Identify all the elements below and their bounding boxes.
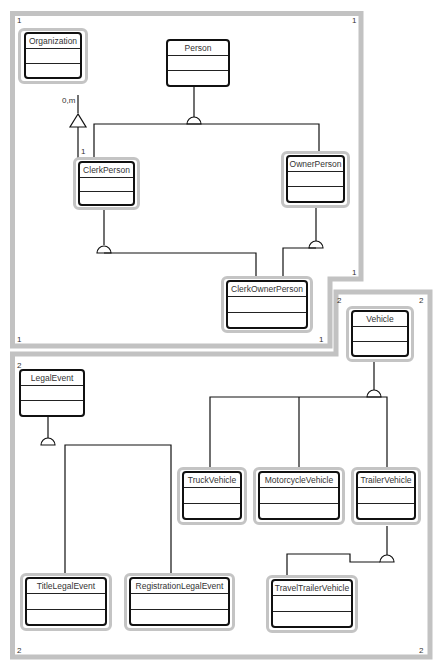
class-attributes (228, 297, 306, 313)
class-name: TitleLegalEvent (27, 579, 105, 594)
class-name: MotorcycleVehicle (260, 473, 338, 488)
legal-event-class[interactable]: LegalEvent (19, 369, 85, 417)
class-operations (228, 313, 306, 328)
person-class[interactable]: Person (166, 39, 230, 87)
owner-person-class[interactable]: OwnerPerson (286, 155, 345, 203)
class-attributes (288, 172, 343, 187)
class-attributes (358, 488, 414, 504)
class-operations (168, 71, 228, 85)
class-name: LegalEvent (21, 371, 83, 386)
class-operations (358, 504, 414, 519)
class-attributes (21, 386, 83, 401)
class-name: TruckVehicle (184, 473, 240, 488)
region-1-label-notch: 1 (352, 269, 356, 277)
class-operations (353, 342, 407, 356)
class-operations (131, 610, 228, 625)
class-name: ClerkOwnerPerson (228, 282, 306, 297)
class-name: Organization (26, 34, 80, 49)
class-operations (273, 612, 351, 627)
title-legal-event-class[interactable]: TitleLegalEvent (25, 577, 107, 626)
class-attributes (273, 596, 351, 612)
class-attributes (27, 594, 105, 610)
truck-vehicle-class[interactable]: TruckVehicle (182, 471, 242, 520)
registration-legal-event-class[interactable]: RegistrationLegalEvent (129, 577, 230, 626)
class-operations (184, 504, 240, 519)
organization-class[interactable]: Organization (24, 32, 82, 79)
class-name: Person (168, 41, 228, 56)
class-operations (27, 610, 105, 625)
class-attributes (131, 594, 228, 610)
class-operations (21, 401, 83, 415)
clerk-owner-person-class[interactable]: ClerkOwnerPerson (226, 280, 308, 329)
class-attributes (353, 327, 407, 342)
class-operations (26, 64, 80, 78)
region-2-label-bottom-right: 2 (419, 647, 423, 655)
class-name: Vehicle (353, 312, 407, 327)
class-operations (288, 187, 343, 201)
region-2-label-top-right: 2 (419, 297, 423, 305)
region-2-label-notch-left: 2 (337, 297, 341, 305)
travel-trailer-vehicle-class[interactable]: TravelTrailerVehicle (271, 579, 353, 628)
vehicle-class[interactable]: Vehicle (351, 310, 409, 357)
clerk-person-class[interactable]: ClerkPerson (78, 161, 135, 206)
class-attributes (26, 49, 80, 64)
class-attributes (260, 488, 338, 504)
class-name: TrailerVehicle (358, 473, 414, 488)
class-name: ClerkPerson (80, 163, 133, 178)
region-1-label-top-left: 1 (17, 17, 21, 25)
region-1-label-bottom-right: 1 (319, 336, 323, 344)
class-attributes (80, 178, 133, 192)
class-operations (80, 192, 133, 205)
class-name: RegistrationLegalEvent (131, 579, 228, 594)
class-attributes (184, 488, 240, 504)
class-operations (260, 504, 338, 519)
class-attributes (168, 56, 228, 71)
multiplicity-organization-end: 0,m (62, 97, 75, 105)
motorcycle-vehicle-class[interactable]: MotorcycleVehicle (258, 471, 340, 520)
multiplicity-clerk-end: 1 (81, 148, 85, 156)
region-1-label-bottom-left: 1 (17, 336, 21, 344)
trailer-vehicle-class[interactable]: TrailerVehicle (356, 471, 416, 520)
region-2-label-bottom-left: 2 (17, 647, 21, 655)
class-name: TravelTrailerVehicle (273, 581, 351, 596)
region-1-label-top-right: 1 (352, 17, 356, 25)
class-name: OwnerPerson (288, 157, 343, 172)
